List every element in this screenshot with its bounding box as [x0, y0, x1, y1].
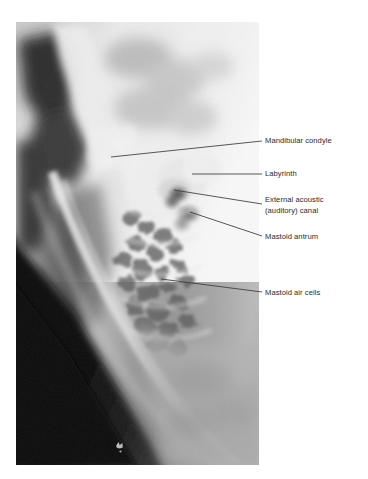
label-mastoid-air-cells: Mastoid air cells — [265, 288, 320, 299]
anatomy-radiograph-figure: Mandibular condyle Labyrinth External ac… — [0, 0, 368, 479]
label-labyrinth: Labyrinth — [265, 169, 297, 180]
radiograph-image — [16, 22, 259, 465]
label-external-acoustic-auditory-canal: External acoustic (auditory) canal — [265, 195, 324, 216]
temporal-bone-radiograph — [16, 22, 259, 465]
label-mastoid-antrum: Mastoid antrum — [265, 232, 318, 243]
label-mandibular-condyle: Mandibular condyle — [265, 136, 332, 147]
